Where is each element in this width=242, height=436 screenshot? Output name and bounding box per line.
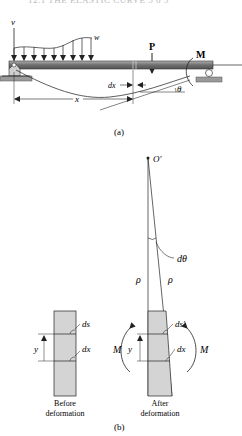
figure-b-caption: (b) [114, 422, 125, 432]
figure-a-caption: (a) [114, 127, 124, 137]
before-caption-1: Before [54, 399, 76, 408]
roller-support [196, 70, 222, 83]
figure: v w P [0, 0, 242, 436]
slope-angle-label: θ [177, 84, 182, 94]
figure-a: v w P [0, 17, 242, 137]
rho-right-label: ρ [167, 274, 173, 285]
distributed-load-arrows [14, 38, 91, 60]
x-label: x [74, 94, 79, 104]
moment-label: M [196, 49, 206, 60]
after-dx-label: dx [177, 344, 186, 354]
beam [9, 61, 213, 69]
v-axis-label: v [11, 17, 15, 27]
after-y-label: y [127, 344, 132, 354]
moment-right-label: M [199, 344, 209, 355]
before-dx-label: dx [82, 344, 91, 354]
figure-b: O′ dθ ρ ρ ds′ dx y M M ds [33, 154, 209, 432]
after-caption-2: deformation [140, 409, 179, 418]
distributed-load-curve [14, 38, 92, 49]
before-y-label: y [33, 344, 38, 354]
before-caption-2: deformation [45, 409, 84, 418]
dx-label: dx [108, 81, 116, 90]
before-ds-label: ds [82, 319, 91, 329]
after-element [148, 311, 172, 396]
after-ds-label: ds′ [175, 319, 186, 329]
before-element [54, 311, 76, 396]
dtheta-label: dθ [177, 253, 187, 264]
after-caption-1: After [152, 399, 169, 408]
point-load-label: P [149, 41, 155, 52]
rho-left-label: ρ [135, 274, 141, 285]
elastic-curve [16, 70, 190, 97]
distributed-load-label: w [94, 33, 100, 42]
center-label: O′ [153, 154, 162, 164]
moment-left-label: M [112, 344, 122, 355]
moment-right-arrow [187, 328, 196, 372]
